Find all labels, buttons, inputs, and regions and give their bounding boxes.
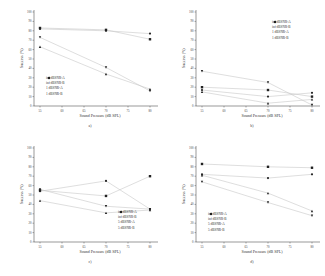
data-point-square-icon <box>149 175 151 177</box>
x-tick-label: 70 <box>267 245 271 249</box>
y-axis-label: Success (%) <box>19 48 24 68</box>
x-tick-label: 65 <box>245 245 249 249</box>
panel-caption: a) <box>80 123 100 128</box>
x-tick-label: 55 <box>201 109 205 113</box>
data-point-triangle-down-icon <box>149 90 151 92</box>
series-line <box>202 174 312 178</box>
y-tick-label: 10 <box>191 95 195 99</box>
y-tick-label: 60 <box>29 48 33 52</box>
x-tick-label: 80 <box>149 245 153 249</box>
y-tick-label: 100 <box>189 146 194 150</box>
y-tick-label: 30 <box>29 76 33 80</box>
y-tick-label: 20 <box>29 85 33 89</box>
y-tick-label: 40 <box>29 66 33 70</box>
x-tick-label: 75 <box>127 109 131 113</box>
x-axis-label: Sound Pressure (dB SPL) <box>222 113 302 118</box>
data-point-circle-icon <box>267 177 269 179</box>
y-tick-label: 100 <box>27 10 32 14</box>
series-line <box>202 175 312 211</box>
legend: inf dBSNR-Ainf dBSNR-B5 dBSNR-A5 dBSNR-B <box>118 210 137 231</box>
y-tick-label: 50 <box>191 193 195 197</box>
series-line <box>40 176 150 196</box>
y-tick-label: 90 <box>191 19 195 23</box>
y-tick-label: 30 <box>191 76 195 80</box>
data-point-circle-icon <box>311 173 313 175</box>
x-tick-label: 60 <box>61 245 65 249</box>
y-tick-label: 80 <box>191 29 195 33</box>
data-point-square-icon <box>267 166 269 168</box>
x-axis-label: Sound Pressure (dB SPL) <box>60 113 140 118</box>
data-point-triangle-up-icon <box>311 210 313 212</box>
x-tick-label: 60 <box>223 109 227 113</box>
data-point-triangle-up-icon <box>39 46 41 48</box>
y-tick-label: 20 <box>191 85 195 89</box>
data-point-circle-icon <box>105 30 107 32</box>
legend-label: 5 dBSNR-B <box>118 226 135 231</box>
legend-label: 1 dBSNR-B <box>46 92 63 97</box>
x-axis-label: Sound Pressure (dB SPL) <box>60 249 140 254</box>
y-tick-label: 40 <box>191 66 195 70</box>
y-tick-label: 90 <box>191 155 195 159</box>
legend-label: 1 dBSNR-B <box>272 36 289 41</box>
x-tick-label: 80 <box>149 109 153 113</box>
y-tick-label: 70 <box>29 174 33 178</box>
x-tick-label: 55 <box>201 245 205 249</box>
y-tick-label: 70 <box>191 38 195 42</box>
data-point-square-icon <box>201 163 203 165</box>
x-axis-label: Sound Pressure (dB SPL) <box>222 249 302 254</box>
panel-caption: d) <box>242 259 262 264</box>
data-point-square-icon <box>149 38 151 40</box>
data-point-circle-icon <box>267 96 269 98</box>
x-tick-label: 55 <box>39 245 43 249</box>
data-point-square-icon <box>311 167 313 169</box>
panel-caption: c) <box>80 259 100 264</box>
y-tick-label: 60 <box>191 48 195 52</box>
y-tick-label: 0 <box>30 104 32 108</box>
x-tick-label: 65 <box>245 109 249 113</box>
y-tick-label: 60 <box>29 184 33 188</box>
x-tick-label: 65 <box>83 245 87 249</box>
x-tick-label: 70 <box>105 245 109 249</box>
data-point-square-icon <box>201 86 203 88</box>
y-tick-label: 70 <box>29 38 33 42</box>
y-tick-label: 0 <box>192 104 194 108</box>
y-tick-label: 80 <box>29 29 33 33</box>
y-tick-label: 60 <box>191 184 195 188</box>
x-tick-label: 65 <box>83 109 87 113</box>
x-tick-label: 60 <box>61 109 65 113</box>
x-tick-label: 70 <box>105 109 109 113</box>
data-point-circle-icon <box>311 92 313 94</box>
y-tick-label: 50 <box>191 57 195 61</box>
y-axis-label: Success (%) <box>19 184 24 204</box>
data-point-triangle-down-icon <box>39 36 41 38</box>
series-line <box>40 189 150 209</box>
triangle-down-marker-icon <box>46 76 52 80</box>
y-tick-label: 100 <box>189 10 194 14</box>
y-axis-label: Success (%) <box>181 48 186 68</box>
y-tick-label: 40 <box>191 202 195 206</box>
y-tick-label: 90 <box>29 19 33 23</box>
y-tick-label: 30 <box>29 212 33 216</box>
triangle-down-marker-icon <box>272 20 278 24</box>
chart-panel-c: 0102030405060708090100556065707580inf dB… <box>0 136 162 274</box>
y-tick-label: 50 <box>29 193 33 197</box>
data-point-square-icon <box>311 95 313 97</box>
legend: inf dBSNR-Ainf dBSNR-B1 dBSNR-A1 dBSNR-B <box>272 20 291 41</box>
y-tick-label: 30 <box>191 212 195 216</box>
data-point-circle-icon <box>149 33 151 35</box>
series-line <box>202 164 312 168</box>
y-tick-label: 20 <box>191 221 195 225</box>
series-line <box>202 182 312 216</box>
panel-caption: b) <box>242 123 262 128</box>
x-tick-label: 80 <box>311 109 315 113</box>
data-point-square-icon <box>267 89 269 91</box>
y-tick-label: 40 <box>29 202 33 206</box>
triangle-down-marker-icon <box>208 212 214 216</box>
x-tick-label: 60 <box>223 245 227 249</box>
legend-item: 1 dBSNR-B <box>46 92 65 97</box>
axes <box>196 10 320 106</box>
series-line <box>202 90 312 97</box>
y-tick-label: 10 <box>191 231 195 235</box>
y-tick-label: 80 <box>191 165 195 169</box>
series-line <box>202 92 312 103</box>
